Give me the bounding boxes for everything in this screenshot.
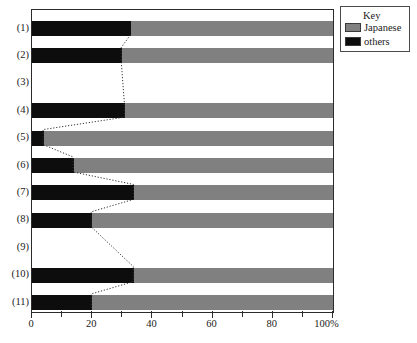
category-label: (7) — [1, 187, 29, 198]
category-label: (11) — [1, 297, 29, 308]
plot-area — [31, 9, 334, 313]
bar-row — [32, 48, 333, 63]
x-axis-tick — [151, 311, 152, 318]
legend-box: Key Japanese others — [340, 6, 410, 52]
x-axis: 020406080100% — [31, 311, 332, 343]
bar-segment-others — [32, 48, 122, 63]
category-label: (8) — [1, 214, 29, 225]
bar-segment-others — [32, 268, 134, 283]
x-axis-tick — [332, 311, 333, 318]
legend-label-japanese: Japanese — [364, 22, 401, 34]
bar-segment-japanese — [134, 268, 333, 283]
bar-row — [32, 295, 333, 310]
x-axis-tick-label: 40 — [146, 319, 157, 330]
x-axis-tick — [121, 311, 122, 317]
bar-row — [32, 21, 333, 36]
bar-segment-others — [32, 131, 44, 146]
bar-segment-others — [32, 103, 125, 118]
legend-label-others: others — [364, 36, 390, 48]
x-axis-tick — [242, 311, 243, 317]
bar-segment-japanese — [74, 158, 333, 173]
category-axis-labels: (1)(2)(3)(4)(5)(6)(7)(8)(9)(10)(11) — [0, 9, 29, 311]
legend-swatch-others — [345, 37, 361, 46]
category-label: (2) — [1, 50, 29, 61]
legend-swatch-japanese — [345, 23, 361, 32]
x-axis-tick — [182, 311, 183, 317]
bar-segment-others — [32, 185, 134, 200]
bar-segment-others — [32, 21, 131, 36]
bar-segment-japanese — [134, 185, 333, 200]
bar-segment-others — [32, 213, 92, 228]
bar-row — [32, 131, 333, 146]
bar-segment-japanese — [92, 213, 333, 228]
legend-title: Key — [363, 10, 381, 22]
bar-segment-japanese — [122, 48, 333, 63]
x-axis-tick-label: 80 — [267, 319, 278, 330]
x-axis-tick — [272, 311, 273, 318]
bar-row — [32, 213, 333, 228]
bar-segment-others — [32, 295, 92, 310]
category-label: (4) — [1, 105, 29, 116]
category-label: (1) — [1, 23, 29, 34]
x-axis-tick — [91, 311, 92, 318]
bar-segment-japanese — [125, 103, 333, 118]
x-axis-tick — [212, 311, 213, 318]
x-axis-tick-label: 60 — [206, 319, 217, 330]
bar-row — [32, 158, 333, 173]
stacked-bar-chart: (1)(2)(3)(4)(5)(6)(7)(8)(9)(10)(11) 0204… — [0, 0, 417, 343]
x-axis-tick — [302, 311, 303, 317]
x-axis-tick-label: 0 — [28, 319, 33, 330]
x-axis-tick — [61, 311, 62, 317]
x-axis-tick-label: 100% — [314, 319, 339, 330]
bar-row — [32, 268, 333, 283]
bar-row — [32, 185, 333, 200]
category-label: (9) — [1, 242, 29, 253]
category-label: (10) — [1, 269, 29, 280]
category-label: (3) — [1, 77, 29, 88]
bar-segment-japanese — [44, 131, 333, 146]
bar-segment-japanese — [92, 295, 333, 310]
bar-segment-japanese — [131, 21, 333, 36]
bar-row — [32, 103, 333, 118]
bar-segment-others — [32, 158, 74, 173]
category-label: (6) — [1, 160, 29, 171]
x-axis-tick-label: 20 — [86, 319, 97, 330]
category-label: (5) — [1, 132, 29, 143]
x-axis-tick — [31, 311, 32, 318]
